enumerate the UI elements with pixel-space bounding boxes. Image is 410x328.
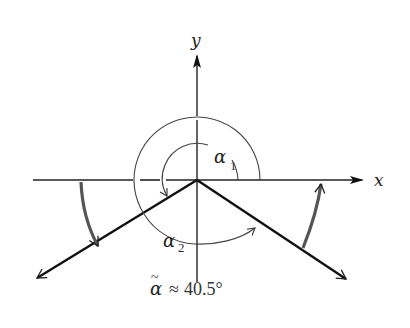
angle-diagram: y x α 1 α 2 α ~ ≈ 40.5° — [0, 0, 410, 328]
svg-text:1: 1 — [230, 158, 237, 173]
alpha1-label: α 1 — [214, 146, 237, 173]
y-axis-label: y — [190, 30, 201, 50]
x-axis-label: x — [374, 170, 384, 190]
svg-text:~: ~ — [151, 270, 159, 285]
svg-text:40.5°: 40.5° — [184, 279, 223, 299]
caption: α ~ ≈ 40.5° — [150, 270, 223, 299]
svg-text:α: α — [163, 230, 175, 251]
reference-arc-right — [303, 184, 321, 248]
svg-text:α: α — [214, 146, 226, 167]
alpha2-label: α 2 — [163, 230, 185, 255]
reference-arc-left — [81, 182, 98, 246]
svg-text:2: 2 — [178, 240, 185, 255]
svg-text:≈: ≈ — [169, 279, 179, 299]
ray-lower-left — [37, 180, 197, 278]
ray-lower-right — [197, 180, 346, 279]
